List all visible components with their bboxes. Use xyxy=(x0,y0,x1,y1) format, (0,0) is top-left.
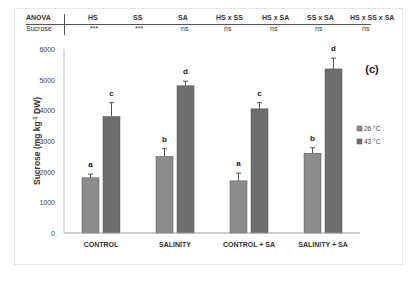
y-tick-label: 0 xyxy=(51,230,55,237)
bar xyxy=(103,116,120,233)
significance-letter: b xyxy=(162,135,167,144)
bar xyxy=(325,69,342,233)
bars: acbdacbd xyxy=(82,44,342,233)
x-tick-label: SALINITY + SA xyxy=(298,241,347,248)
y-axis-label: Sucrose (mg kg-1 DW) xyxy=(32,97,42,185)
legend-swatch xyxy=(357,126,362,131)
bar xyxy=(82,178,99,233)
significance-letter: c xyxy=(109,89,114,98)
x-tick-label: CONTROL xyxy=(84,241,119,248)
legend-label: 43 °C xyxy=(364,138,381,145)
legend: 26 °C43 °C xyxy=(357,125,381,145)
significance-letter: d xyxy=(331,44,336,53)
bar xyxy=(177,86,194,233)
x-axis: CONTROLSALINITYCONTROL + SASALINITY + SA xyxy=(64,233,360,248)
significance-letter: d xyxy=(183,67,188,76)
bar xyxy=(156,156,173,233)
y-tick-label: 6000 xyxy=(39,46,55,53)
y-tick-label: 5000 xyxy=(39,77,55,84)
x-tick-label: CONTROL + SA xyxy=(223,241,275,248)
bar xyxy=(230,181,247,233)
panel-label: (c) xyxy=(365,63,379,75)
legend-label: 26 °C xyxy=(364,125,381,132)
significance-letter: c xyxy=(257,89,262,98)
significance-letter: b xyxy=(310,134,315,143)
significance-letter: a xyxy=(88,160,93,169)
x-tick-label: SALINITY xyxy=(159,241,191,248)
legend-swatch xyxy=(357,139,362,144)
bar-chart: 0100020003000400050006000 acbdacbd CONTR… xyxy=(0,0,417,281)
y-axis: 0100020003000400050006000 xyxy=(39,46,64,237)
bar xyxy=(251,109,268,233)
bar xyxy=(304,153,321,233)
significance-letter: a xyxy=(236,159,241,168)
y-tick-label: 1000 xyxy=(39,199,55,206)
